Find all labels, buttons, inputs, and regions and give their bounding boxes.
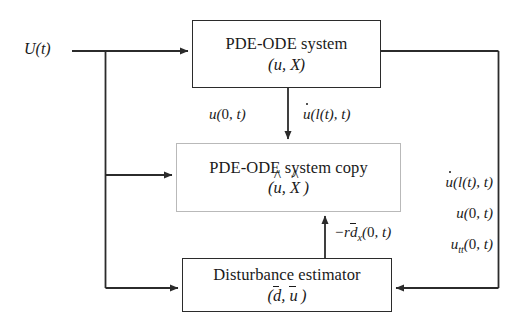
block-pde-ode-system-title: PDE-ODE system	[226, 34, 348, 53]
edge-label-estimator-to-copy: −rdx(0, t)	[334, 222, 391, 244]
block-disturbance-estimator-title: Disturbance estimator	[213, 265, 360, 284]
block-pde-ode-system-copy-subtitle: (u, X )	[268, 178, 309, 197]
block-pde-ode-system-copy[interactable]: PDE-ODE system copy (u, X )	[176, 143, 401, 212]
block-pde-ode-system[interactable]: PDE-ODE system ( u, X )	[192, 20, 381, 88]
block-diagram-canvas: U(t) PDE-ODE system ( u, X ) PDE-ODE sys…	[0, 0, 524, 334]
input-signal-label: U(t)	[24, 40, 51, 58]
edge-label-plant-to-copy-left: u(0, t)	[209, 105, 246, 123]
edge-label-feedback-udot: u(l(t), t)	[398, 173, 493, 191]
block-pde-ode-system-subtitle: ( u, X )	[268, 55, 305, 74]
block-disturbance-estimator[interactable]: Disturbance estimator (d, u )	[182, 258, 392, 312]
edge-label-feedback-u0: u(0, t)	[398, 204, 493, 222]
block-disturbance-estimator-subtitle: (d, u )	[267, 285, 306, 305]
block-pde-ode-system-copy-title: PDE-ODE system copy	[209, 158, 368, 177]
edge-label-plant-to-copy-right: u(l(t), t)	[303, 105, 350, 123]
edge-label-feedback-utt: utt(0, t)	[398, 235, 493, 256]
